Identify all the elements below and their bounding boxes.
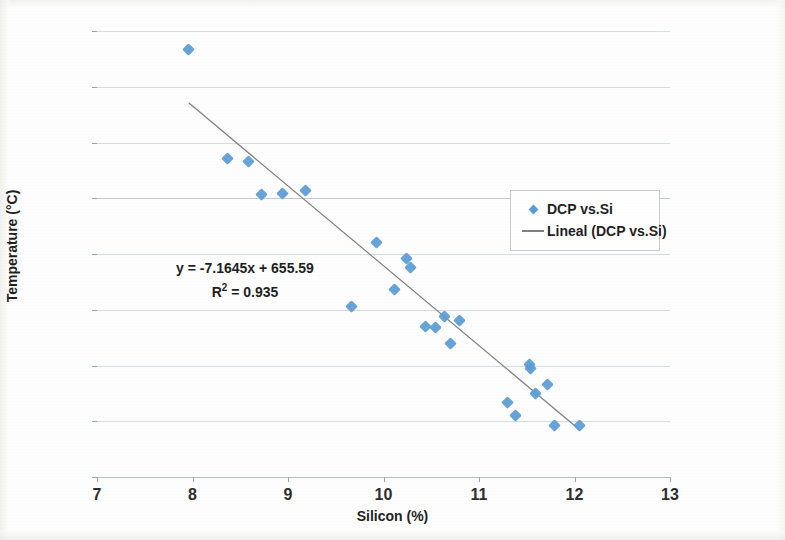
y-tick-mark (92, 198, 97, 199)
gridline (97, 310, 670, 311)
y-tick-mark (92, 421, 97, 422)
x-tick-mark (670, 477, 671, 482)
legend-label-series: DCP vs.Si (547, 201, 613, 217)
data-point (501, 396, 514, 409)
y-tick-mark (92, 310, 97, 311)
data-point (242, 155, 255, 168)
x-tick-mark (193, 477, 194, 482)
r-squared-prefix: R (212, 284, 222, 300)
scatter-chart: Temperature (°C) Silicon (%) 56557057558… (0, 0, 785, 540)
x-tick-label: 8 (173, 486, 213, 504)
x-axis-title: Silicon (%) (0, 508, 785, 524)
x-tick-label: 10 (364, 486, 404, 504)
legend-diamond-icon (519, 206, 547, 213)
data-point (388, 283, 401, 296)
legend-item-trendline: Lineal (DCP vs.Si) (519, 220, 651, 242)
chart-legend: DCP vs.Si Lineal (DCP vs.Si) (510, 190, 660, 251)
gridline (97, 87, 670, 88)
data-point (255, 189, 268, 202)
regression-annotation: y = -7.1645x + 655.59 R2 = 0.935 (130, 258, 360, 302)
data-point (299, 184, 312, 197)
r-squared-exponent: 2 (222, 282, 228, 293)
gridline (97, 254, 670, 255)
legend-item-series: DCP vs.Si (519, 198, 651, 220)
r-squared-value: = 0.935 (231, 284, 278, 300)
gridline (97, 421, 670, 422)
y-tick-mark (92, 254, 97, 255)
x-tick-label: 12 (555, 486, 595, 504)
r-squared-label: R2 = 0.935 (130, 278, 360, 302)
regression-equation: y = -7.1645x + 655.59 (130, 258, 360, 278)
x-tick-label: 9 (268, 486, 308, 504)
y-axis-title: Temperature (°C) (4, 86, 20, 406)
data-point (438, 310, 451, 323)
data-point (541, 378, 554, 391)
x-tick-label: 7 (77, 486, 117, 504)
data-point (182, 44, 195, 57)
data-point (346, 300, 359, 313)
data-point (529, 387, 542, 400)
gridline (97, 366, 670, 367)
x-tick-label: 13 (650, 486, 690, 504)
x-tick-mark (288, 477, 289, 482)
x-tick-mark (479, 477, 480, 482)
y-tick-mark (92, 366, 97, 367)
data-point (444, 337, 457, 350)
legend-label-trendline: Lineal (DCP vs.Si) (547, 223, 667, 239)
scanned-page: Temperature (°C) Silicon (%) 56557057558… (0, 0, 785, 540)
data-point (454, 315, 467, 328)
y-tick-mark (92, 143, 97, 144)
data-point (429, 321, 442, 334)
gridline (97, 31, 670, 32)
x-tick-mark (97, 477, 98, 482)
y-tick-mark (92, 87, 97, 88)
legend-line-icon (519, 230, 547, 232)
x-tick-label: 11 (459, 486, 499, 504)
x-tick-mark (384, 477, 385, 482)
data-point (370, 236, 383, 249)
data-point (221, 152, 234, 165)
data-point (509, 409, 522, 422)
gridline (97, 143, 670, 144)
x-tick-mark (575, 477, 576, 482)
y-tick-mark (92, 31, 97, 32)
plot-area: 565570575580585590595600605 78910111213 (97, 31, 670, 477)
